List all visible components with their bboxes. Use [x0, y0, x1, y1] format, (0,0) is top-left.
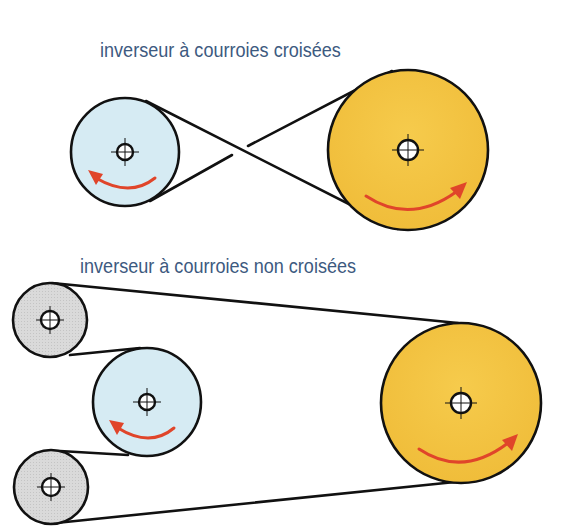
driver-pulley-uncrossed — [93, 348, 201, 456]
idler-pulley-top — [13, 283, 87, 357]
belt-reverser-diagram — [0, 0, 567, 531]
idler-pulley-bottom — [14, 450, 88, 524]
uncrossed-belt-assembly — [13, 283, 541, 524]
belt-segment-top — [52, 283, 458, 323]
driven-pulley-uncrossed — [381, 323, 541, 483]
driver-pulley-crossed — [71, 98, 179, 206]
crossed-belt-assembly — [71, 70, 488, 230]
belt-segment-bottom — [56, 482, 455, 523]
driven-pulley-crossed — [328, 70, 488, 230]
